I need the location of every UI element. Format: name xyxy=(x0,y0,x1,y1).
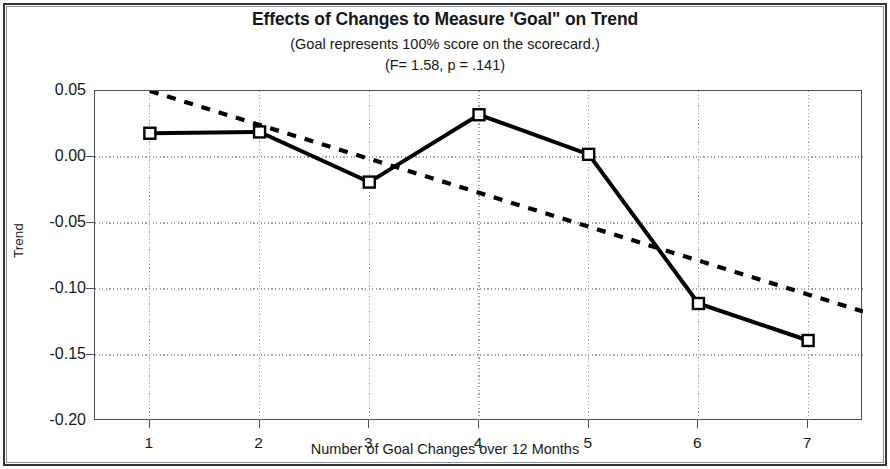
chart-subtitle: (Goal represents 100% score on the score… xyxy=(0,34,890,54)
x-axis-tick-mark xyxy=(149,420,150,428)
chart-figure: Effects of Changes to Measure 'Goal" on … xyxy=(0,0,890,469)
x-axis-tick-mark xyxy=(478,420,479,428)
y-axis-tick-label: 0.05 xyxy=(8,81,86,99)
plot-canvas xyxy=(95,91,863,421)
x-axis-tick-mark xyxy=(368,420,369,428)
data-point-marker xyxy=(583,149,594,160)
data-point-marker xyxy=(803,335,814,346)
chart-subtitle-stats: (F= 1.58, p = .141) xyxy=(0,55,890,75)
plot-area xyxy=(94,90,862,420)
data-point-marker xyxy=(474,109,485,120)
x-axis-title: Number of Goal Changes over 12 Months xyxy=(0,441,890,457)
y-axis-tick-label: -0.10 xyxy=(8,279,86,297)
x-axis-tick-mark xyxy=(807,420,808,428)
y-axis-tick-label: 0.00 xyxy=(8,147,86,165)
data-point-marker xyxy=(693,298,704,309)
y-axis-tick-mark xyxy=(86,288,94,289)
x-axis-tick-mark xyxy=(259,420,260,428)
data-point-marker xyxy=(254,126,265,137)
x-axis-tick-mark xyxy=(697,420,698,428)
title-block: Effects of Changes to Measure 'Goal" on … xyxy=(0,9,890,75)
chart-title: Effects of Changes to Measure 'Goal" on … xyxy=(0,9,890,30)
y-axis-tick-mark xyxy=(86,156,94,157)
y-axis-tick-mark xyxy=(86,354,94,355)
x-axis-tick-mark xyxy=(588,420,589,428)
y-axis-tick-label: -0.15 xyxy=(8,345,86,363)
y-axis-tick-mark xyxy=(86,222,94,223)
y-axis-ticks: 0.050.00-0.05-0.10-0.15-0.20 xyxy=(0,90,86,420)
y-axis-tick-label: -0.20 xyxy=(8,411,86,429)
data-point-marker xyxy=(144,128,155,139)
y-axis-tick-label: -0.05 xyxy=(8,213,86,231)
data-point-marker xyxy=(364,177,375,188)
